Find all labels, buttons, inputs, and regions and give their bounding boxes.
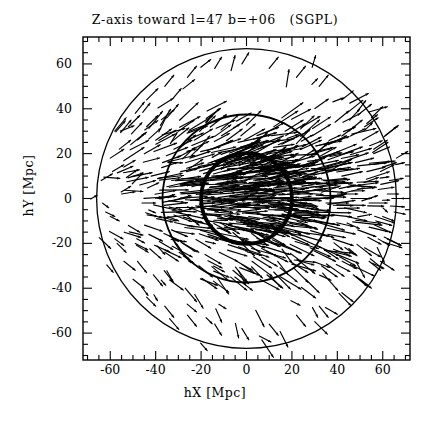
y-tick-label: 0 (28, 191, 72, 206)
x-tick-label: -60 (88, 362, 132, 377)
y-tick-label: -20 (28, 235, 72, 250)
x-tick-label: 20 (270, 362, 314, 377)
plot-figure: Z-axis toward l=47 b=+06 (SGPL) hY [Mpc]… (0, 0, 430, 423)
x-tick-label: 0 (225, 362, 269, 377)
y-tick-label: 40 (28, 101, 72, 116)
x-tick-label: 60 (361, 362, 405, 377)
velocity-vector-field (91, 53, 408, 358)
y-tick-label: 60 (28, 56, 72, 71)
y-tick-label: 20 (28, 146, 72, 161)
x-tick-label: -20 (179, 362, 223, 377)
y-tick-label: -40 (28, 280, 72, 295)
y-tick-label: -60 (28, 325, 72, 340)
x-tick-label: -40 (134, 362, 178, 377)
x-tick-label: 40 (315, 362, 359, 377)
